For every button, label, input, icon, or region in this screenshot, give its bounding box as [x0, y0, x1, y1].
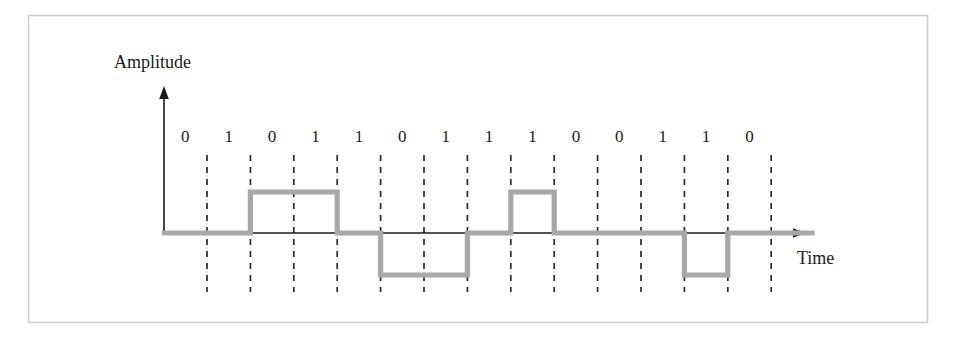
bit-label: 0	[398, 127, 407, 146]
figure-container: 01011011100110 Amplitude Time	[0, 0, 955, 343]
amplitude-axis-label: Amplitude	[114, 52, 191, 72]
time-axis-label: Time	[797, 248, 834, 268]
bit-label: 1	[658, 127, 667, 146]
bit-label: 0	[268, 127, 277, 146]
bipolar-waveform-figure: 01011011100110 Amplitude Time	[0, 0, 955, 343]
bit-label: 1	[441, 127, 450, 146]
bit-label: 1	[702, 127, 711, 146]
bit-label: 0	[181, 127, 190, 146]
bit-label: 1	[224, 127, 233, 146]
bit-label: 0	[615, 127, 624, 146]
bit-label: 1	[355, 127, 364, 146]
bit-label: 1	[485, 127, 494, 146]
bit-label: 1	[311, 127, 320, 146]
bit-label: 1	[528, 127, 537, 146]
bit-label: 0	[745, 127, 754, 146]
bit-label: 0	[572, 127, 581, 146]
